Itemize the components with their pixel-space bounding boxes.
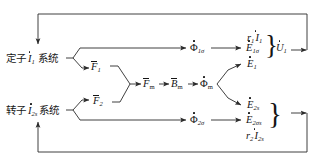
phim-symbol: Φ bbox=[200, 78, 208, 89]
e2ss-sub: 2σs bbox=[252, 119, 261, 126]
e1-sub: 1 bbox=[253, 63, 256, 70]
stator-to-f1-wire bbox=[73, 58, 89, 68]
stator-label-suffix: 系统 bbox=[38, 52, 58, 64]
node-f1: F1 bbox=[91, 62, 101, 73]
node-bm: Bm bbox=[171, 79, 183, 90]
node-u1: U1 bbox=[276, 43, 287, 54]
node-e1: E1 bbox=[247, 59, 257, 70]
rotor-label-suffix: 系统 bbox=[39, 104, 59, 116]
fm-sub: m bbox=[149, 83, 154, 90]
node-r2i2s: r2I2s bbox=[246, 131, 264, 142]
node-fm: Fm bbox=[143, 79, 155, 90]
rotor-to-phi2s-wire bbox=[73, 110, 186, 120]
node-e1s: E1σ bbox=[246, 43, 259, 54]
stator-to-phi1s-wire bbox=[73, 48, 186, 58]
phim-sub: m bbox=[208, 83, 213, 90]
diagram-wires bbox=[0, 0, 321, 167]
e1s-sub: 1σ bbox=[252, 47, 259, 54]
e2s-sub: 2s bbox=[253, 104, 259, 111]
r2i2s-coef-sub: 2 bbox=[250, 135, 253, 142]
f1-sub: 1 bbox=[97, 66, 100, 73]
node-phim: Φm bbox=[200, 79, 213, 90]
r2i2s-sub: 2s bbox=[258, 135, 264, 142]
stator-label-sub: 1 bbox=[32, 58, 35, 65]
r1i1-sub: 1 bbox=[259, 37, 262, 44]
phi1s-symbol: Φ bbox=[190, 42, 198, 53]
node-phi2s: Φ2σ bbox=[190, 115, 204, 126]
signal-flow-diagram: 定子I1系统 转子I2s系统 F1 F2 Fm Bm Φm Φ1σ Φ2σ r1… bbox=[0, 0, 321, 167]
node-phi1s: Φ1σ bbox=[190, 43, 204, 54]
rotor-label-symbol: I bbox=[28, 105, 32, 116]
rotor-label-sub: 2s bbox=[32, 110, 38, 117]
node-f2: F2 bbox=[93, 96, 103, 107]
u1-sub: 1 bbox=[284, 47, 287, 54]
bottom-feedback-wire bbox=[38, 113, 307, 152]
phim-to-e1-wire bbox=[217, 64, 241, 84]
bm-sub: m bbox=[177, 83, 182, 90]
phim-to-e2s-wire bbox=[217, 84, 241, 105]
rotor-to-f2-wire bbox=[73, 100, 89, 110]
phi2s-symbol: Φ bbox=[190, 114, 198, 125]
f2-sub: 2 bbox=[99, 100, 102, 107]
phi1s-sub: 1σ bbox=[198, 47, 205, 54]
node-e2s: E2s bbox=[247, 100, 259, 111]
rotor-voltage-brace: } bbox=[268, 99, 282, 128]
phi2s-sub: 2σ bbox=[198, 119, 205, 126]
rotor-label-prefix: 转子 bbox=[6, 104, 26, 116]
stator-label-prefix: 定子 bbox=[6, 52, 26, 64]
rotor-system-block: 转子I2s系统 bbox=[6, 105, 59, 117]
node-e2ss: E2σs bbox=[246, 115, 262, 126]
stator-label-symbol: I bbox=[28, 53, 32, 64]
stator-system-block: 定子I1系统 bbox=[6, 53, 58, 65]
u1-symbol: U bbox=[276, 42, 284, 53]
